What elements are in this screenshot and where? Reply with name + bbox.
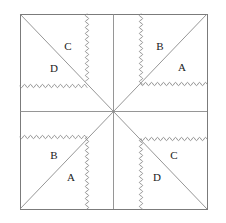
label-top-right-b: B xyxy=(156,40,163,52)
label-bottom-right-d: D xyxy=(153,171,161,183)
figure-container: CDBABACD xyxy=(0,0,226,223)
wavy-vertical-bottom-left xyxy=(85,137,88,209)
label-bottom-left-b: B xyxy=(50,149,57,161)
label-bottom-right-c: C xyxy=(170,149,177,161)
wavy-horizontal-bottom-left xyxy=(20,135,87,138)
label-top-left-d: D xyxy=(50,62,58,74)
straight-lines-group xyxy=(20,14,207,209)
label-top-left-c: C xyxy=(64,40,71,52)
label-top-right-a: A xyxy=(178,61,186,73)
region-labels-group: CDBABACD xyxy=(50,40,186,183)
wavy-vertical-top-left xyxy=(85,14,88,81)
wavy-horizontal-top-left xyxy=(20,84,87,87)
wavy-horizontal-top-right xyxy=(141,82,207,85)
wavy-horizontal-bottom-right xyxy=(141,137,207,140)
wavy-vertical-top-right xyxy=(139,14,142,84)
wavy-vertical-bottom-right xyxy=(139,139,142,209)
geometry-diagram: CDBABACD xyxy=(0,0,226,223)
label-bottom-left-a: A xyxy=(67,171,75,183)
